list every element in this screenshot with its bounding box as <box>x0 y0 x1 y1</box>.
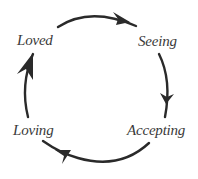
arrow-accepting-to-loving <box>43 141 149 164</box>
cycle-arrows <box>0 0 198 179</box>
arrowhead-up-icon <box>17 53 33 80</box>
node-label-loving: Loving <box>13 123 53 138</box>
node-label-accepting: Accepting <box>127 123 185 138</box>
node-label-loved: Loved <box>17 33 53 48</box>
arrow-loved-to-seeing <box>58 12 136 27</box>
cycle-diagram: Loved Seeing Accepting Loving <box>0 0 198 179</box>
arrowhead-left-icon <box>55 150 71 164</box>
arrow-loving-to-loved <box>17 53 33 117</box>
node-label-seeing: Seeing <box>138 34 177 49</box>
arrow-seeing-to-accepting <box>159 54 174 117</box>
